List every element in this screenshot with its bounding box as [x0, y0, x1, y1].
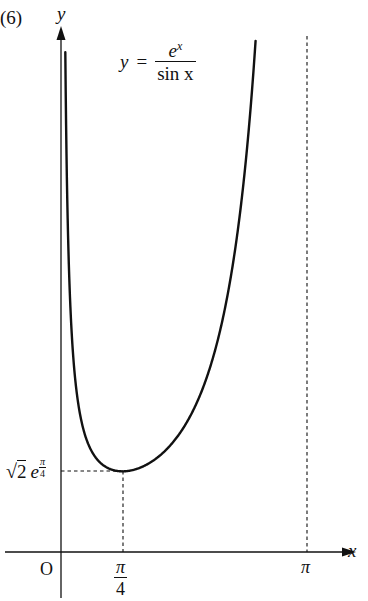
equation-label: y = ex sin x	[120, 40, 196, 83]
exponent-denominator: 4	[39, 467, 46, 479]
equation-fraction: ex sin x	[155, 40, 195, 83]
sqrt-radicand: 2	[17, 460, 27, 481]
equation-denominator: sin x	[155, 61, 195, 83]
tick-pi-over-4-numerator: π	[114, 558, 127, 577]
equation-equals: =	[136, 52, 147, 71]
exponent-numerator: π	[39, 457, 46, 467]
min-label-base: e	[30, 462, 38, 481]
tick-pi-over-4: π 4	[114, 558, 127, 598]
numerator-exponent: x	[177, 39, 182, 53]
tick-pi-over-4-denominator: 4	[114, 577, 127, 598]
equation-numerator: ex	[166, 40, 184, 61]
origin-label: O	[40, 560, 53, 578]
curve-ex-over-sinx	[65, 41, 255, 472]
sqrt-icon: √	[6, 461, 17, 481]
y-axis-arrow-icon	[57, 26, 66, 40]
graph-canvas	[0, 0, 368, 601]
problem-number: (6)	[0, 8, 22, 27]
x-axis-label: x	[348, 541, 356, 560]
equation-lhs: y	[120, 52, 128, 71]
tick-pi: π	[301, 558, 310, 576]
min-label-exponent: π 4	[39, 457, 46, 479]
y-axis-label: y	[57, 4, 65, 23]
numerator-base: e	[168, 40, 176, 61]
min-value-label: √ 2 e π 4	[6, 460, 46, 481]
